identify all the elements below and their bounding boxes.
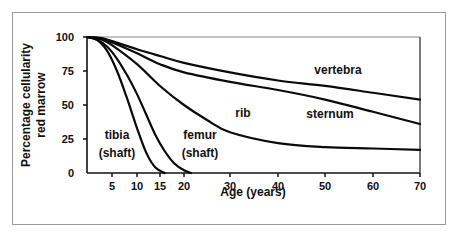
- x-tick-label: 15: [154, 180, 166, 192]
- y-tick-label: 75: [62, 65, 74, 77]
- y-axis-title-line: red marrow: [34, 72, 48, 138]
- chart: Percentage cellularityred marrow 0255075…: [0, 0, 461, 240]
- series-label-sternum: sternum: [306, 107, 353, 121]
- y-tick-label: 25: [62, 133, 74, 145]
- y-tick-label: 50: [62, 99, 74, 111]
- y-axis-title: Percentage cellularityred marrow: [19, 43, 48, 167]
- y-axis-title-line: Percentage cellularity: [19, 43, 33, 167]
- y-tick-label: 100: [56, 31, 74, 43]
- series-label-rib: rib: [235, 106, 250, 120]
- x-tick-label: 70: [414, 180, 426, 192]
- series-label-tibia: tibia: [105, 128, 130, 142]
- axes: [87, 37, 420, 173]
- curve-vertebra: [87, 37, 420, 100]
- x-axis-title: Age (years): [220, 185, 285, 199]
- data-curves: [87, 37, 420, 173]
- x-tick-label: 50: [319, 180, 331, 192]
- series-label-femur: femur: [183, 128, 217, 142]
- series-label-tibia: (shaft): [99, 146, 136, 160]
- series-label-vertebra: vertebra: [314, 63, 362, 77]
- x-tick-label: 5: [109, 180, 115, 192]
- x-tick-label: 20: [178, 180, 190, 192]
- x-tick-label: 60: [367, 180, 379, 192]
- series-labels: tibia(shaft)femur(shaft)ribsternumverteb…: [99, 63, 362, 160]
- x-tick-label: 10: [131, 180, 143, 192]
- series-label-femur: (shaft): [182, 146, 219, 160]
- y-tick-label: 0: [68, 167, 74, 179]
